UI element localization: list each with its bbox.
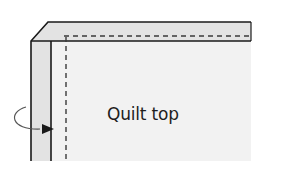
top-fold-band (31, 22, 251, 41)
left-fold-strip (31, 41, 51, 161)
quilt-diagram (0, 0, 284, 194)
quilt-top-label: Quilt top (107, 104, 179, 124)
quilt-top-face (51, 41, 251, 161)
